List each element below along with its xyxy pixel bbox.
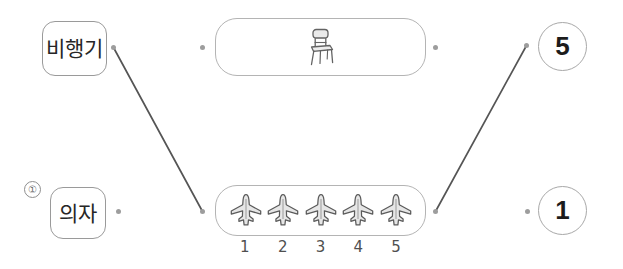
connector-dot-number-one[interactable] xyxy=(525,209,530,214)
connector-dot-word-chair[interactable] xyxy=(116,209,121,214)
number-option-five-label: 5 xyxy=(555,31,569,62)
word-option-airplane-label: 비행기 xyxy=(46,38,103,59)
airplane-caption: 2 xyxy=(266,238,300,256)
chair-icon xyxy=(304,27,338,67)
airplane-icon xyxy=(229,193,263,229)
airplane-caption: 5 xyxy=(379,238,413,256)
question-number-marker: ① xyxy=(24,181,41,198)
word-option-chair-label: 의자 xyxy=(59,203,97,224)
airplane-icon xyxy=(379,193,413,229)
connector-dot-airplane-group-left[interactable] xyxy=(200,209,205,214)
matching-exercise-canvas: ① 비행기 의자 xyxy=(0,0,623,269)
connector-line-airplane-to-planes xyxy=(114,48,203,212)
airplane-icon xyxy=(341,193,375,229)
airplane-caption: 4 xyxy=(341,238,375,256)
number-option-one-label: 1 xyxy=(555,195,569,226)
picture-group-chair[interactable] xyxy=(215,18,426,76)
picture-group-airplanes[interactable] xyxy=(215,185,426,236)
number-option-five[interactable]: 5 xyxy=(538,22,587,71)
connector-dot-number-five[interactable] xyxy=(524,43,529,48)
airplane-caption: 3 xyxy=(303,238,337,256)
airplane-caption: 1 xyxy=(228,238,262,256)
airplane-caption-row: 1 2 3 4 5 xyxy=(215,238,426,260)
word-option-chair[interactable]: 의자 xyxy=(50,187,106,239)
connector-dot-airplane-group-right[interactable] xyxy=(433,209,438,214)
connector-line-planes-to-five xyxy=(436,46,527,212)
number-option-one[interactable]: 1 xyxy=(538,186,587,235)
connector-dot-word-airplane[interactable] xyxy=(111,45,116,50)
airplane-icon xyxy=(266,193,300,229)
airplane-icon xyxy=(304,193,338,229)
word-option-airplane[interactable]: 비행기 xyxy=(42,21,107,76)
connector-dot-chair-group-right[interactable] xyxy=(433,45,438,50)
connector-dot-chair-group-left[interactable] xyxy=(200,45,205,50)
